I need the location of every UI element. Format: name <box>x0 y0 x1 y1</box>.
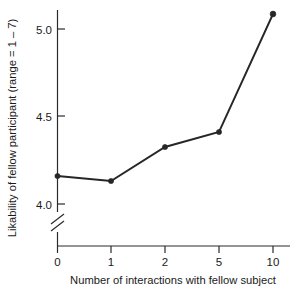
x-tick-label-0: 0 <box>54 256 60 268</box>
y-tick-label-4.5: 4.5 <box>36 111 52 123</box>
y-tick-label-5.0: 5.0 <box>36 24 52 36</box>
data-point-1 <box>108 178 113 183</box>
series-line-likability <box>58 14 274 181</box>
x-tick-label-2: 2 <box>162 256 168 268</box>
x-tick-label-10: 10 <box>267 256 280 268</box>
data-point-10 <box>270 11 276 17</box>
data-point-0 <box>55 173 60 178</box>
x-tick-label-1: 1 <box>108 256 114 268</box>
line-chart: 5.0 4.5 4.0 0 1 2 5 10 Number of interac… <box>0 0 298 288</box>
data-point-5 <box>216 129 221 134</box>
y-axis-break-icon <box>51 214 64 231</box>
chart-figure: 5.0 4.5 4.0 0 1 2 5 10 Number of interac… <box>0 0 298 288</box>
y-axis-title: Likability of fellow participant (range … <box>6 18 18 237</box>
x-axis-title: Number of interactions with fellow subje… <box>70 274 277 286</box>
data-point-2 <box>162 144 167 149</box>
x-tick-label-5: 5 <box>216 256 222 268</box>
y-tick-label-4.0: 4.0 <box>36 199 52 211</box>
